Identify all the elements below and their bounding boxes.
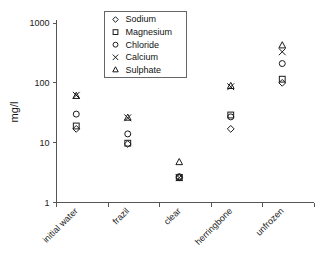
x-axis: initial waterfrazilclearherringboneunfro… bbox=[41, 203, 314, 247]
series-chloride bbox=[73, 61, 285, 180]
marker-diamond bbox=[227, 125, 234, 132]
marker-circle bbox=[279, 61, 285, 67]
x-tick-label: initial water bbox=[41, 206, 80, 245]
chart-legend: SodiumMagnesiumChlorideCalciumSulphate bbox=[105, 12, 187, 78]
x-tick-label: unfrozen bbox=[254, 206, 286, 238]
legend-item-label: Calcium bbox=[126, 52, 159, 62]
marker-circle bbox=[73, 111, 79, 117]
legend-item-label: Sodium bbox=[126, 14, 157, 24]
marker-triangle bbox=[227, 82, 234, 88]
chart-figure: 1101001000mg/l initial waterfrazilclearh… bbox=[0, 0, 324, 259]
marker-cross bbox=[279, 48, 286, 55]
y-tick-label: 1 bbox=[44, 198, 49, 208]
x-tick-label: herringbone bbox=[193, 206, 234, 247]
legend-item-label: Magnesium bbox=[126, 27, 173, 37]
legend-item-label: Chloride bbox=[126, 40, 160, 50]
y-tick-label: 100 bbox=[34, 78, 49, 88]
marker-triangle bbox=[176, 158, 183, 164]
marker-diamond bbox=[279, 79, 286, 86]
y-axis: 1101001000mg/l bbox=[8, 18, 57, 208]
y-tick-label: 1000 bbox=[29, 18, 49, 28]
marker-triangle bbox=[279, 42, 286, 48]
y-tick-label: 10 bbox=[39, 138, 49, 148]
x-tick-label: clear bbox=[162, 206, 183, 227]
scatter-plot: 1101001000mg/l initial waterfrazilclearh… bbox=[0, 0, 324, 259]
marker-circle bbox=[125, 131, 131, 137]
marker-circle bbox=[228, 114, 234, 120]
legend-item-label: Sulphate bbox=[126, 65, 162, 75]
x-tick-label: frazil bbox=[111, 206, 132, 227]
series-sodium bbox=[73, 79, 286, 181]
y-axis-title: mg/l bbox=[8, 102, 20, 123]
